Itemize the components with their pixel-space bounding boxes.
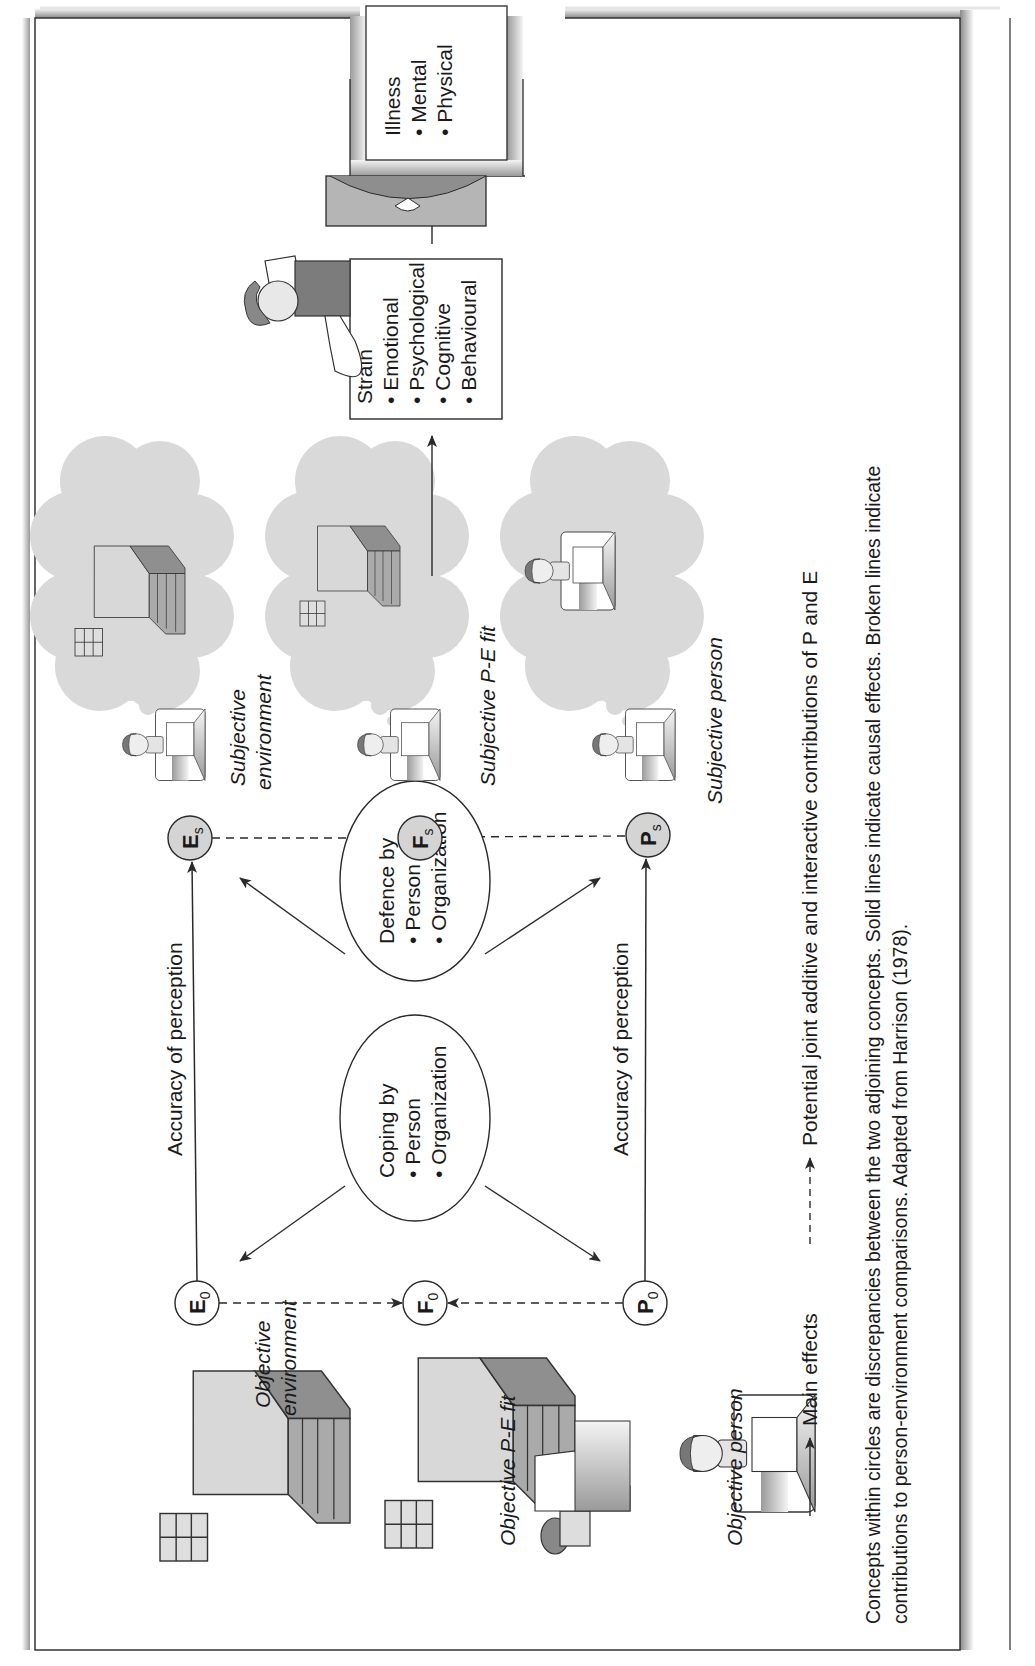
node-Es: Es xyxy=(168,816,212,860)
strain-item: •Cognitive xyxy=(431,303,454,404)
accuracy-top-label: Accuracy of perception xyxy=(163,942,186,1156)
legend-main-effects: Main effects xyxy=(798,1313,821,1426)
objective-person-label: Objective person xyxy=(723,1388,746,1546)
node-P0: P0 xyxy=(623,1281,667,1325)
subjective-person-label: Subjective person xyxy=(703,637,726,804)
subjective-pe-fit-label: Subjective P-E fit xyxy=(476,625,499,786)
accuracy-bottom-label: Accuracy of perception xyxy=(609,942,632,1156)
pe-fit-diagram: Objective environment Objective P-E fit … xyxy=(0,0,1035,1666)
frame-shadow-bottom xyxy=(960,10,974,1650)
coping-ellipse: Coping by •Person •Organization xyxy=(340,1015,490,1221)
caption-line-1: Concepts within circles are discrepancie… xyxy=(862,466,884,1624)
defence-ellipse: Defence by •Person •Organization xyxy=(340,781,490,981)
frame-shadow-top xyxy=(22,18,30,1650)
node-F0: F0 xyxy=(403,1281,447,1325)
accuracy-person-arrow xyxy=(645,859,646,1281)
node-Ps: Ps xyxy=(626,813,670,857)
rotated-figure-stage: Objective environment Objective P-E fit … xyxy=(0,0,1035,1666)
thought-bubble-small xyxy=(371,697,389,715)
node-Fs: Fs xyxy=(398,816,442,860)
thought-bubble-small xyxy=(606,697,624,715)
coping-item-organization: •Organization xyxy=(427,1046,450,1178)
coping-title: Coping by xyxy=(375,1083,398,1178)
objective-pe-fit-label: Objective P-E fit xyxy=(496,1394,519,1546)
bed-headboard-icon xyxy=(326,176,486,226)
node-E0: E0 xyxy=(175,1281,219,1325)
strain-item: •Behavioural xyxy=(457,280,480,404)
strain-box: Strain •Emotional •Psychological •Cognit… xyxy=(350,259,502,419)
illness-title: Illness xyxy=(381,76,404,136)
caption-line-2: contributions to person-environment comp… xyxy=(889,924,911,1624)
illness-item: •Physical xyxy=(433,44,456,136)
strain-item: •Psychological xyxy=(405,262,428,404)
strain-item: •Emotional xyxy=(379,297,402,404)
legend-joint-effects: Potential joint additive and interactive… xyxy=(798,571,821,1146)
thought-bubble-small xyxy=(139,697,157,715)
defence-title: Defence by xyxy=(375,837,398,944)
